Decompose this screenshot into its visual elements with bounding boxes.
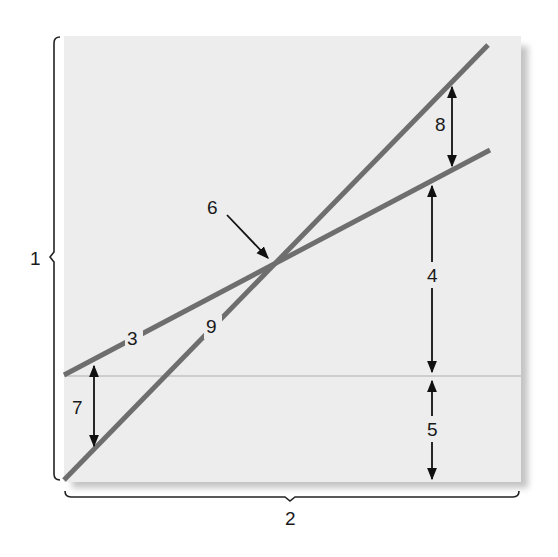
label-8: 8	[435, 114, 446, 135]
label-3: 3	[127, 328, 138, 349]
line-intersection-diagram: 1 2 3 4 5 6 7 8 9	[0, 0, 558, 557]
label-9: 9	[206, 316, 217, 337]
label-6: 6	[207, 197, 218, 218]
label-7: 7	[72, 397, 83, 418]
brace-vertical	[50, 37, 60, 480]
label-2: 2	[285, 508, 296, 529]
brace-horizontal	[65, 491, 519, 501]
label-1: 1	[30, 248, 41, 269]
label-4: 4	[427, 265, 438, 286]
label-5: 5	[427, 419, 438, 440]
